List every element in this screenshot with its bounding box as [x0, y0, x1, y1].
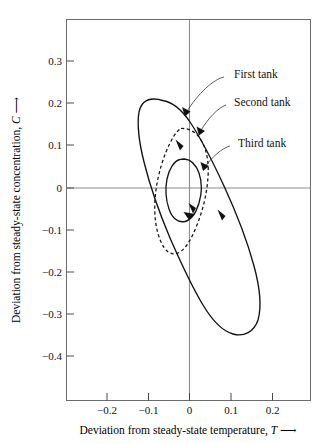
y-tick-label-5: −0.2 [42, 266, 62, 278]
y-axis-title: Deviation from steady-state concentratio… [10, 97, 23, 324]
x-axis-title: Deviation from steady-state temperature,… [79, 424, 297, 437]
y-tick-label-4: −0.1 [42, 224, 62, 236]
y-tick-label-3: 0 [57, 182, 63, 194]
x-axis-title-text: Deviation from steady-state temperature, [79, 424, 268, 437]
x-tick-label-0: −0.2 [97, 404, 117, 416]
y-axis-title-arrow: ⟶ [10, 97, 22, 114]
annotation-label-first-tank: First tank [234, 68, 278, 80]
x-tick-label-2: 0 [187, 404, 193, 416]
annotation-label-second-tank: Second tank [234, 96, 291, 108]
phase-plane-chart: 0.3 0.2 0.1 0 −0.1 −0.2 −0.3 −0.4 −0.2 −… [0, 0, 331, 444]
x-tick-label-3: 0.1 [224, 404, 238, 416]
svg-text:Deviation from steady-state te: Deviation from steady-state temperature,… [79, 424, 297, 437]
phase-plane-figure: 0.3 0.2 0.1 0 −0.1 −0.2 −0.3 −0.4 −0.2 −… [0, 0, 331, 444]
y-tick-label-6: −0.3 [42, 308, 62, 320]
x-tick-label-4: 0.2 [266, 404, 280, 416]
y-tick-label-1: 0.2 [48, 97, 62, 109]
x-tick-label-1: −0.1 [139, 404, 159, 416]
y-tick-label-0: 0.3 [48, 55, 62, 67]
svg-text:Deviation from steady-state co: Deviation from steady-state concentratio… [10, 97, 23, 324]
y-tick-label-7: −0.4 [42, 350, 62, 362]
y-axis-title-text: Deviation from steady-state concentratio… [10, 127, 23, 323]
y-tick-label-2: 0.1 [48, 139, 62, 151]
annotation-label-third-tank: Third tank [238, 137, 286, 149]
x-axis-title-arrow: ⟶ [280, 424, 297, 436]
